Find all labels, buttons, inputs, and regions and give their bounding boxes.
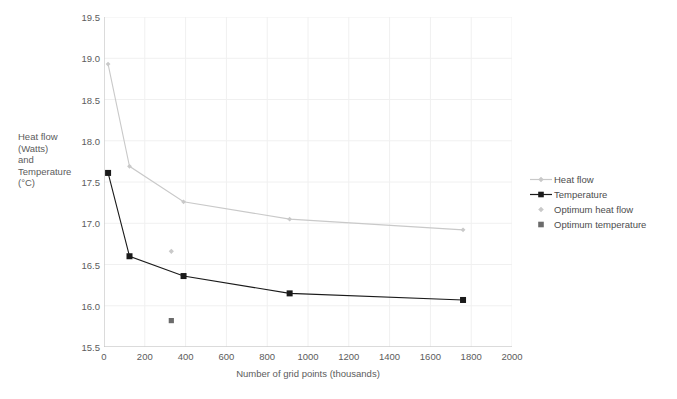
data-point-marker	[127, 253, 133, 259]
legend-label: Optimum temperature	[554, 219, 646, 230]
plot-area	[104, 17, 512, 347]
series-heat-flow	[106, 62, 466, 233]
series-line	[108, 64, 463, 230]
data-point-marker	[169, 318, 174, 323]
y-tick-label: 16.0	[60, 300, 100, 311]
x-tick-label: 2000	[487, 351, 537, 362]
series-optimum-temperature	[169, 318, 174, 323]
legend-marker-icon	[528, 172, 554, 187]
data-point-marker	[181, 273, 187, 279]
chart-legend: Heat flowTemperatureOptimum heat flowOpt…	[528, 172, 673, 232]
series-temperature	[105, 170, 466, 303]
legend-marker-icon	[528, 217, 554, 232]
y-tick-label: 18.0	[60, 135, 100, 146]
data-point-marker	[460, 297, 466, 303]
legend-point	[538, 207, 544, 213]
data-point-marker	[105, 170, 111, 176]
legend-marker-icon	[528, 202, 554, 217]
series-line	[108, 173, 463, 300]
y-tick-label: 17.5	[60, 177, 100, 188]
data-point-marker	[287, 217, 292, 222]
legend-item-temperature[interactable]: Temperature	[528, 187, 673, 202]
data-series-layer	[104, 17, 512, 347]
data-point-marker	[169, 249, 174, 254]
legend-marker-icon	[528, 187, 554, 202]
legend-point	[538, 192, 544, 198]
data-point-marker	[106, 62, 111, 67]
y-tick-label: 19.0	[60, 53, 100, 64]
x-axis-tick-labels: 0200400600800100012001400160018002000	[104, 351, 512, 367]
data-point-marker	[461, 227, 466, 232]
y-tick-label: 16.5	[60, 259, 100, 270]
legend-label: Temperature	[554, 189, 607, 200]
legend-item-optimum-temperature[interactable]: Optimum temperature	[528, 217, 673, 232]
y-tick-label: 17.0	[60, 218, 100, 229]
y-tick-label: 19.5	[60, 12, 100, 23]
legend-item-heat-flow[interactable]: Heat flow	[528, 172, 673, 187]
chart-figure: Heat flow (Watts) and Temperature (°C) 1…	[0, 0, 677, 399]
legend-label: Heat flow	[554, 174, 594, 185]
legend-point	[538, 222, 544, 228]
y-axis-tick-labels: 19.519.018.518.017.517.016.516.015.5	[56, 17, 100, 347]
legend-label: Optimum heat flow	[554, 204, 633, 215]
data-point-marker	[287, 290, 293, 296]
legend-point	[538, 177, 544, 183]
x-axis-title: Number of grid points (thousands)	[104, 368, 512, 379]
legend-item-optimum-heat-flow[interactable]: Optimum heat flow	[528, 202, 673, 217]
series-optimum-heat-flow	[169, 249, 174, 254]
y-tick-label: 18.5	[60, 94, 100, 105]
